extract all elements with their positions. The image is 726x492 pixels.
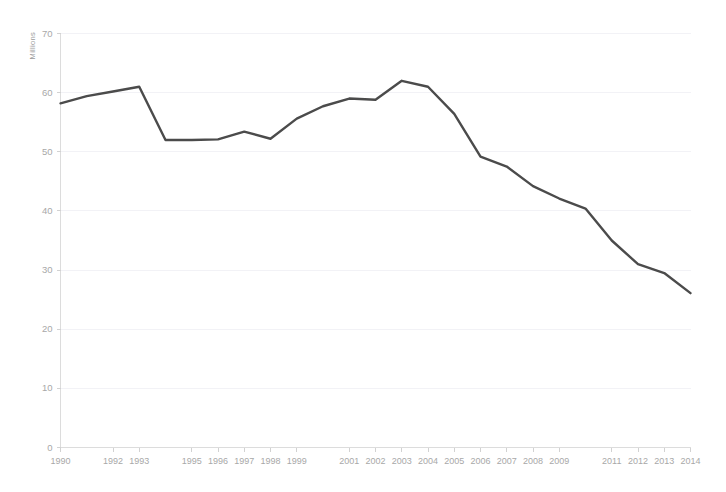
x-tick-label: 2005 [444, 456, 464, 466]
x-tick-label: 2011 [602, 456, 621, 466]
y-tick-label: 20 [42, 323, 53, 334]
x-tick-label: 1997 [234, 456, 254, 466]
grid-lines [61, 34, 691, 389]
x-tick-label: 2002 [365, 456, 385, 466]
x-tick-label: 1995 [182, 456, 202, 466]
y-tick-label: 0 [47, 442, 52, 453]
x-tick-label: 2003 [392, 456, 412, 466]
y-axis-label: Millions [28, 32, 37, 59]
x-tick-label: 1999 [287, 456, 307, 466]
x-tick-label: 2006 [470, 456, 490, 466]
x-tick-label: 2001 [339, 456, 359, 466]
x-tick-label: 2014 [680, 456, 700, 466]
x-tick-label: 2012 [628, 456, 648, 466]
x-tick-label: 2008 [523, 456, 543, 466]
x-tick-label: 1996 [208, 456, 228, 466]
x-axis-tick-labels: 1990199219931995199619971998199920012002… [50, 448, 700, 466]
data-line [61, 81, 691, 293]
y-tick-label: 10 [42, 382, 53, 393]
y-tick-label: 60 [42, 87, 53, 98]
x-tick-label: 1992 [103, 456, 123, 466]
x-tick-label: 2009 [549, 456, 569, 466]
y-axis-title: Millions [28, 32, 37, 59]
data-series-group [61, 81, 691, 293]
y-tick-label: 50 [42, 146, 53, 157]
x-tick-label: 1998 [260, 456, 280, 466]
y-tick-label: 40 [42, 205, 53, 216]
y-tick-label: 30 [42, 264, 53, 275]
x-tick-label: 2007 [497, 456, 517, 466]
y-axis-tick-labels: 010203040506070 [42, 28, 61, 453]
x-tick-label: 2013 [654, 456, 674, 466]
chart-svg: 010203040506070 199019921993199519961997… [0, 0, 726, 492]
x-tick-label: 1993 [129, 456, 149, 466]
chart-page: 010203040506070 199019921993199519961997… [0, 0, 726, 492]
line-chart: 010203040506070 199019921993199519961997… [0, 0, 726, 492]
x-tick-label: 1990 [50, 456, 70, 466]
y-tick-label: 70 [42, 28, 53, 39]
x-tick-label: 2004 [418, 456, 438, 466]
